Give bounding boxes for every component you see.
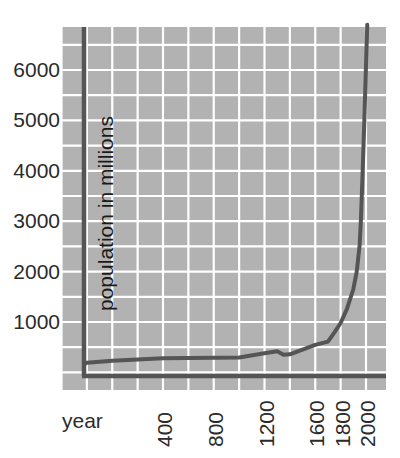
- y-tick-label: 5000: [13, 109, 60, 130]
- y-tick-label: 2000: [13, 261, 60, 282]
- population-chart-figure: 100020003000400050006000 400800120016001…: [0, 0, 400, 458]
- x-tick-label: 1200: [256, 400, 277, 447]
- x-tick-label: 1600: [306, 400, 327, 447]
- data-layer: [0, 0, 400, 458]
- population-line: [84, 25, 367, 365]
- y-tick-label: 4000: [13, 160, 60, 181]
- y-tick-label: 6000: [13, 59, 60, 80]
- y-tick-label: 1000: [13, 311, 60, 332]
- x-tick-label: 2000: [357, 400, 378, 447]
- x-tick-label: 400: [154, 412, 175, 447]
- y-axis-title: population in millions: [95, 116, 116, 311]
- x-axis-title: year: [62, 410, 103, 431]
- y-tick-label: 3000: [13, 210, 60, 231]
- x-tick-label: 800: [205, 412, 226, 447]
- x-tick-label: 1800: [332, 400, 353, 447]
